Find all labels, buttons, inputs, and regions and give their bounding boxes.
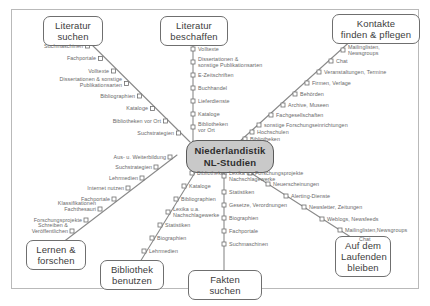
stop-label: Fachportale bbox=[229, 228, 299, 234]
terminus-literatur-beschaffen[interactable]: Literatur beschaffen bbox=[160, 16, 228, 46]
diagram-canvas: Literatur suchen Literatur beschaffen Ko… bbox=[0, 0, 430, 306]
stop-label: Lieferdienste bbox=[198, 98, 278, 104]
station-marker bbox=[154, 165, 158, 169]
stop-label: Dissertationen & sonstige Publikationsar… bbox=[22, 76, 122, 88]
station-marker bbox=[182, 184, 186, 188]
stop-label: Statistiken bbox=[165, 222, 235, 228]
station-marker bbox=[191, 73, 195, 77]
stop-label: Gesetze, Verordnungen bbox=[229, 202, 309, 208]
station-marker bbox=[320, 217, 324, 221]
stop-label: Firmen, Verlage bbox=[312, 80, 402, 86]
stop-label: Aus- u. Weiterbildung bbox=[96, 154, 166, 160]
stop-label: Hochschulen bbox=[257, 129, 337, 135]
station-marker bbox=[112, 197, 116, 201]
stop-label: Veranstaltungen, Termine bbox=[324, 69, 424, 75]
station-marker bbox=[191, 112, 195, 116]
station-marker bbox=[177, 131, 181, 135]
station-marker bbox=[191, 60, 195, 64]
stop-label: sonstige Forschungseinrichtungen bbox=[264, 122, 384, 128]
stop-label: Archive, Museen bbox=[288, 102, 378, 108]
station-marker bbox=[150, 236, 154, 240]
stop-label: Internet nutzen bbox=[56, 185, 124, 191]
station-marker bbox=[305, 81, 309, 85]
station-marker bbox=[329, 59, 333, 63]
station-marker bbox=[338, 228, 342, 232]
station-marker bbox=[222, 242, 226, 246]
stop-label: Biographien bbox=[157, 235, 227, 241]
stop-label: Biographien bbox=[229, 215, 299, 221]
stop-label: Bibliotheken vor Ort bbox=[73, 118, 161, 124]
stop-label: Buchhandel bbox=[198, 85, 278, 91]
stop-label: Bibliotheken vor Ort bbox=[198, 121, 258, 133]
stop-label: Suchmaschinen bbox=[229, 241, 299, 247]
stop-label: Mailinglisten, Newsgroups bbox=[348, 44, 426, 56]
station-marker bbox=[164, 119, 168, 123]
station-marker bbox=[70, 229, 74, 233]
stop-label: Alerting-Dienste bbox=[291, 193, 371, 199]
stop-label: Chat bbox=[359, 236, 419, 242]
station-marker bbox=[84, 218, 88, 222]
stop-label: Dissertationen & sonstige Publikationsar… bbox=[198, 56, 274, 68]
station-marker bbox=[341, 48, 345, 52]
line-literatur-suchen bbox=[83, 36, 190, 142]
stop-label: Neuerscheinungen bbox=[273, 181, 353, 187]
station-marker bbox=[281, 103, 285, 107]
station-marker bbox=[98, 207, 102, 211]
stop-label: Fachportale bbox=[16, 55, 96, 61]
hub-node-niederlandistik[interactable]: Niederlandistik NL-Studien bbox=[186, 140, 274, 173]
station-marker bbox=[293, 92, 297, 96]
stop-label: Schreiben & Veröffentlichen bbox=[2, 222, 68, 234]
stop-label: Weblogs, Newsfeeds bbox=[327, 216, 409, 222]
station-marker bbox=[191, 99, 195, 103]
stop-label: Lehrmedien bbox=[149, 248, 219, 254]
stop-label: Suchstrategien bbox=[86, 164, 152, 170]
stop-label: Fachgesellschaften bbox=[276, 112, 366, 118]
station-marker bbox=[191, 86, 195, 90]
station-marker bbox=[140, 176, 144, 180]
station-marker bbox=[174, 197, 178, 201]
stop-label: Kataloge bbox=[198, 111, 278, 117]
station-marker bbox=[125, 82, 129, 86]
terminus-lernen-forschen[interactable]: Lernen & forschen bbox=[26, 240, 86, 270]
station-marker bbox=[166, 210, 170, 214]
terminus-kontakte-finden-pflegen[interactable]: Kontakte finden & pflegen bbox=[332, 14, 420, 44]
terminus-fakten-suchen[interactable]: Fakten suchen bbox=[188, 270, 262, 300]
station-marker bbox=[317, 70, 321, 74]
stop-label: Chat bbox=[336, 58, 406, 64]
terminus-bibliothek-benutzen[interactable]: Bibliothek benutzen bbox=[100, 260, 164, 290]
stop-label: Lehrmedien bbox=[72, 175, 138, 181]
stop-label: Mailinglisten,Newsgroups bbox=[345, 227, 430, 233]
stop-label: Behörden bbox=[300, 91, 380, 97]
stop-label: Suchmaschinen bbox=[6, 43, 83, 49]
terminus-literatur-suchen[interactable]: Literatur suchen bbox=[43, 16, 103, 46]
stop-label: Forschungsprojekte bbox=[255, 170, 335, 176]
station-marker bbox=[99, 57, 103, 61]
stop-label: Klassifikationen Fachthesauri bbox=[30, 200, 96, 212]
stop-label: Kataloge bbox=[68, 105, 148, 111]
station-marker bbox=[191, 125, 195, 129]
station-marker bbox=[168, 155, 172, 159]
stop-label: Bibliotheken bbox=[250, 136, 330, 142]
station-marker bbox=[151, 107, 155, 111]
stop-label: Volltexte bbox=[29, 68, 109, 74]
stop-label: Volltexte bbox=[198, 46, 278, 52]
station-marker bbox=[191, 47, 195, 51]
station-marker bbox=[158, 223, 162, 227]
station-marker bbox=[126, 186, 130, 190]
station-marker bbox=[222, 190, 226, 194]
station-marker bbox=[266, 182, 270, 186]
station-marker bbox=[112, 69, 116, 73]
station-marker bbox=[138, 94, 142, 98]
stop-label: E-Zeitschriften bbox=[198, 72, 278, 78]
stop-label: Bibliographien bbox=[55, 93, 135, 99]
stop-label: Statistiken bbox=[229, 189, 299, 195]
station-marker bbox=[142, 249, 146, 253]
station-marker bbox=[222, 229, 226, 233]
stop-label: Newsletter, Zeitungen bbox=[309, 204, 389, 210]
stop-label: Suchstrategien bbox=[94, 130, 174, 136]
